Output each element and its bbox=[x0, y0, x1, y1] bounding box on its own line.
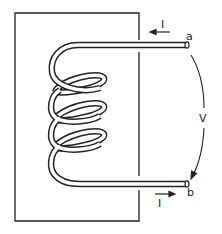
terminal-b-label: b bbox=[187, 186, 194, 199]
coil bbox=[51, 42, 189, 187]
terminal-a-label: a bbox=[186, 30, 193, 43]
inductor-diagram: I a V b I bbox=[0, 0, 222, 234]
current-label-top: I bbox=[161, 18, 164, 31]
current-arrow-bottom bbox=[155, 192, 175, 197]
voltage-label: V bbox=[199, 112, 207, 125]
current-label-bottom: I bbox=[158, 197, 161, 210]
current-arrow-top bbox=[150, 30, 170, 35]
